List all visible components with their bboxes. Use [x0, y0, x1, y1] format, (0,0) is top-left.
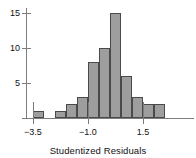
- histogram-bar: [155, 105, 165, 118]
- histogram-bar: [133, 98, 143, 118]
- x-axis-tick-label: −3.5: [24, 127, 42, 137]
- y-axis-tick-label: 15: [0, 8, 20, 18]
- histogram-bar: [100, 49, 110, 118]
- x-axis-tick-label: 1.5: [137, 127, 150, 137]
- y-axis-tick-label: 5: [0, 78, 20, 88]
- y-axis-tick-label: 10: [0, 43, 20, 53]
- histogram-bar: [67, 105, 77, 118]
- histogram-bar: [122, 77, 132, 118]
- histogram-bar: [78, 98, 88, 118]
- histogram-bar: [56, 112, 66, 118]
- x-axis-tick-label: −1.0: [79, 127, 97, 137]
- histogram-bar: [111, 14, 121, 118]
- histogram-bar: [89, 63, 99, 118]
- histogram-bar: [144, 105, 154, 118]
- histogram-screenshot: Studentized Residuals 51015−3.5−1.01.5: [0, 0, 196, 158]
- histogram-bar: [34, 112, 44, 118]
- x-axis-title: Studentized Residuals: [0, 145, 196, 156]
